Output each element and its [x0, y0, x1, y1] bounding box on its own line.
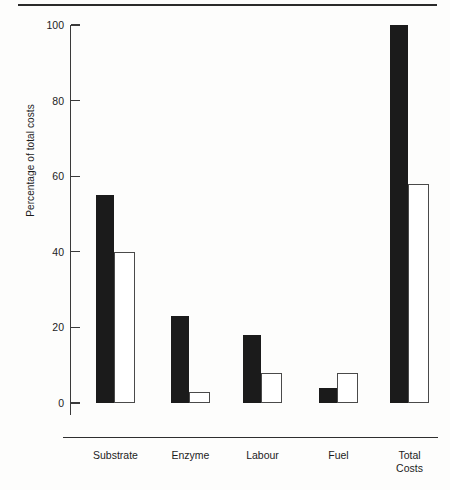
- y-tick-60: [71, 176, 80, 177]
- category-label-substrate: Substrate: [76, 449, 156, 462]
- y-tick-label-40: 40: [52, 247, 64, 258]
- y-tick-40: [71, 251, 80, 252]
- y-tick-0: [71, 402, 80, 403]
- bar-solid-enzyme: [171, 316, 189, 403]
- figure-container: Percentage of total costs 020406080100 S…: [0, 0, 450, 490]
- bar-open-enzyme: [189, 392, 210, 403]
- bar-solid-substrate: [96, 195, 114, 403]
- y-tick-label-80: 80: [52, 96, 64, 107]
- bar-open-total-costs: [408, 184, 429, 403]
- bar-solid-total-costs: [390, 25, 408, 403]
- y-tick-label-0: 0: [58, 398, 64, 409]
- y-tick-label-20: 20: [52, 322, 64, 333]
- category-label-total-costs: Total Costs: [370, 449, 450, 474]
- bar-open-labour: [261, 373, 282, 403]
- y-axis-line: [70, 25, 71, 415]
- bar-solid-labour: [243, 335, 261, 403]
- bar-solid-fuel: [319, 388, 337, 403]
- x-axis-line: [63, 437, 438, 438]
- y-tick-label-60: 60: [52, 171, 64, 182]
- y-axis-title: Percentage of total costs: [25, 81, 36, 241]
- category-label-enzyme: Enzyme: [151, 449, 231, 462]
- y-tick-80: [71, 100, 80, 101]
- bar-open-substrate: [114, 252, 135, 403]
- top-rule-divider: [18, 4, 437, 6]
- category-label-labour: Labour: [223, 449, 303, 462]
- y-tick-20: [71, 327, 80, 328]
- bar-open-fuel: [337, 373, 358, 403]
- category-label-fuel: Fuel: [299, 449, 379, 462]
- y-tick-100: [71, 24, 80, 25]
- y-tick-label-100: 100: [46, 20, 64, 31]
